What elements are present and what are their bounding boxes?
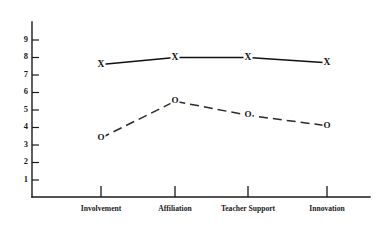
x-tick-group — [101, 186, 327, 197]
data-point-marker-o-2: O — [244, 109, 251, 119]
y-tick-label-9: 9 — [24, 34, 28, 44]
series-line-o — [101, 101, 327, 138]
series-line-x — [101, 58, 327, 65]
data-point-marker-x-0: X — [98, 59, 105, 69]
x-axis-label-group: InvolvementAffiliationTeacher SupportInn… — [81, 204, 346, 213]
data-series-group: XXXXOOOO — [97, 52, 332, 144]
data-point-marker-o-3: O — [323, 120, 330, 130]
data-point-marker-o-1: O — [171, 95, 178, 105]
y-tick-label-5: 5 — [24, 104, 28, 114]
y-tick-label-1: 1 — [24, 174, 28, 184]
data-point-marker-x-3: X — [324, 57, 331, 67]
x-axis-label-affiliation: Affiliation — [158, 204, 192, 213]
x-axis — [32, 186, 370, 197]
y-tick-label-6: 6 — [24, 86, 28, 96]
data-point-marker-o-0: O — [97, 132, 104, 142]
y-tick-label-3: 3 — [24, 139, 28, 149]
x-axis-label-involvement: Involvement — [81, 204, 122, 213]
y-tick-label-8: 8 — [24, 51, 28, 61]
y-tick-label-2: 2 — [24, 156, 28, 166]
y-axis: 123456789 — [24, 22, 39, 197]
x-axis-label-innovation: Innovation — [309, 204, 345, 213]
data-point-marker-x-1: X — [172, 52, 179, 62]
chart-plot-area: 123456789 XXXXOOOO InvolvementAffiliatio… — [0, 0, 377, 227]
y-tick-label-4: 4 — [24, 121, 29, 131]
x-axis-label-teacher-support: Teacher Support — [221, 204, 276, 213]
data-point-marker-x-2: X — [245, 52, 252, 62]
chart-container: 123456789 XXXXOOOO InvolvementAffiliatio… — [0, 0, 377, 227]
y-tick-label-7: 7 — [24, 69, 29, 79]
